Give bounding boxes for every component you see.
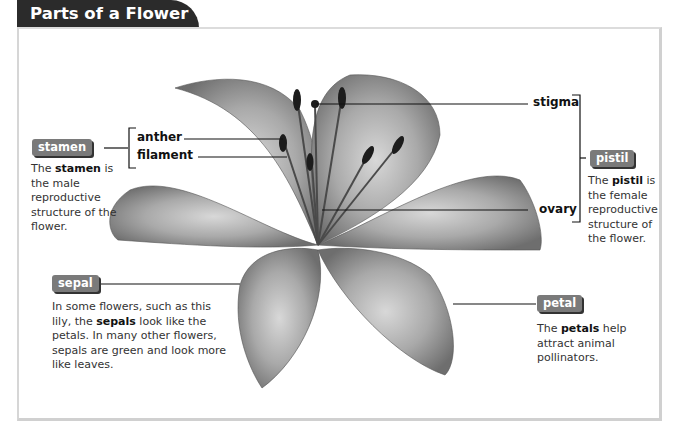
stamen-chip: stamen <box>32 139 92 156</box>
label-ovary: ovary <box>539 202 577 216</box>
desc-bold-term: petals <box>561 322 599 335</box>
desc-bold-term: stamen <box>55 162 101 175</box>
sepal-chip: sepal <box>52 275 99 292</box>
label-anther: anther <box>137 130 182 144</box>
label-filament: filament <box>137 148 193 162</box>
desc-text: The <box>31 162 55 175</box>
sepal-description: In some flowers, such as this lily, the … <box>52 300 232 373</box>
label-stigma: stigma <box>533 95 579 109</box>
petal-description: The petals help attract animal pollinato… <box>537 322 627 366</box>
desc-bold-term: pistil <box>612 174 643 187</box>
stamen-description: The stamen is the male reproductive stru… <box>31 162 131 235</box>
desc-bold-term: sepals <box>96 315 136 328</box>
petal-chip: petal <box>537 295 582 312</box>
pistil-description: The pistil is the female reproductive st… <box>588 174 658 247</box>
pistil-chip: pistil <box>590 150 634 167</box>
desc-text: The <box>588 174 612 187</box>
desc-text: The <box>537 322 561 335</box>
